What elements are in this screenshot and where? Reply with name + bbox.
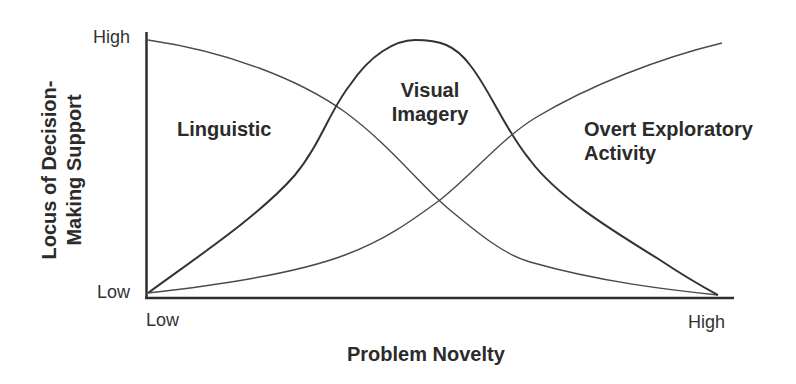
label-overt-line1: Overt Exploratory <box>584 117 753 141</box>
y-axis-title-line1: Locus of Decision- <box>37 81 62 260</box>
label-visual-imagery: Visual Imagery <box>375 78 485 126</box>
label-visual-line1: Visual <box>375 78 485 102</box>
x-tick-high: High <box>688 312 725 333</box>
decision-support-diagram: Locus of Decision- Making Support High L… <box>0 0 796 384</box>
y-tick-low: Low <box>97 282 130 303</box>
label-linguistic: Linguistic <box>177 117 271 141</box>
label-overt-exploratory: Overt Exploratory Activity <box>584 117 753 165</box>
label-visual-line2: Imagery <box>375 102 485 126</box>
y-tick-high: High <box>93 27 130 48</box>
x-axis-title: Problem Novelty <box>347 343 505 366</box>
y-axis-title-line2: Making Support <box>62 81 87 260</box>
label-overt-line2: Activity <box>584 141 753 165</box>
y-axis-title: Locus of Decision- Making Support <box>2 40 122 300</box>
x-tick-low: Low <box>146 310 179 331</box>
